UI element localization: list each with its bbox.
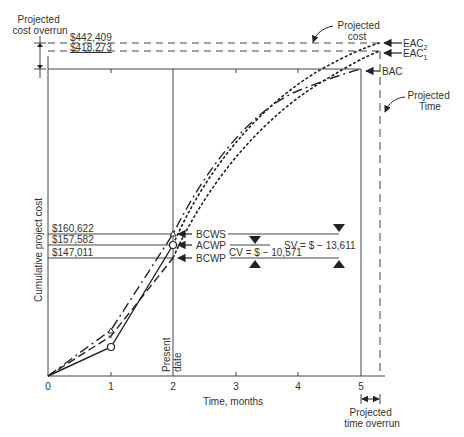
eac2-projection-curve xyxy=(173,43,380,245)
projected-cost-label: Projected cost xyxy=(337,20,382,42)
value-acwp: $157,582 xyxy=(52,234,94,245)
projected-cost-arrow-icon xyxy=(313,26,333,42)
x-tick-1: 1 xyxy=(108,381,114,392)
value-eac1: $418,273 xyxy=(70,42,112,53)
cv-top-arrow-icon xyxy=(249,236,261,244)
value-bcwp: $147,011 xyxy=(52,247,93,258)
earned-value-diagram: × × BCWS ACWP BCWP SV = $ − 13,611 CV = … xyxy=(0,0,464,437)
bcws-curve xyxy=(48,69,361,376)
x-tick-4: 4 xyxy=(295,381,301,392)
y-axis-label: Cumulative project cost xyxy=(33,198,44,302)
sv-bottom-arrow-icon xyxy=(333,260,345,268)
eac1-projection-curve xyxy=(173,51,380,258)
bcwp-label: BCWP xyxy=(196,253,226,264)
acwp-marker xyxy=(170,242,177,249)
acwp-marker-m1 xyxy=(108,344,115,351)
bac-label: BAC xyxy=(382,66,403,77)
x-tick-3: 3 xyxy=(233,381,239,392)
projected-cost-overrun-label: Projected cost overrun xyxy=(12,14,67,36)
x-tick-0: 0 xyxy=(45,381,51,392)
projected-time-label: Projected Time xyxy=(407,90,452,112)
x-tick-2: 2 xyxy=(170,381,176,392)
x-axis-label: Time, months xyxy=(203,396,263,407)
acwp-label: ACWP xyxy=(196,240,226,251)
bcwp-marker: × xyxy=(170,254,175,263)
cv-label: CV = $ − 10,571 xyxy=(229,247,302,258)
acwp-curve xyxy=(48,245,173,376)
bcwp-marker-m1: × xyxy=(108,332,113,341)
present-date-label: Present date xyxy=(161,335,183,372)
bcws-label: BCWS xyxy=(196,229,226,240)
projected-time-arrow-icon xyxy=(385,97,405,112)
projected-time-overrun-label: Projected time overrun xyxy=(344,407,400,429)
sv-top-arrow-icon xyxy=(333,224,345,232)
value-bcws: $160,622 xyxy=(52,223,94,234)
x-tick-5: 5 xyxy=(358,381,364,392)
arrow-down-icon xyxy=(37,65,43,69)
arrow-up-icon xyxy=(37,43,43,47)
cv-bottom-arrow-icon xyxy=(249,260,261,268)
